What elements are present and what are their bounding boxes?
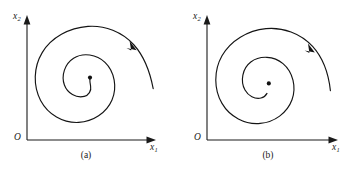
y-axis-arrowhead-icon [204, 15, 211, 25]
equilibrium-point-dot [267, 81, 271, 85]
y-axis-label: x2 [193, 12, 200, 22]
equilibrium-point-dot [88, 76, 92, 80]
panel-caption: (b) [238, 151, 298, 161]
panel-b: x2 x1 O (b) [180, 0, 360, 173]
origin-label: O [14, 133, 21, 143]
y-axis-label: x2 [13, 12, 20, 22]
origin-label: O [194, 133, 201, 143]
panel-caption: (a) [56, 151, 116, 161]
x-axis-label: x1 [150, 143, 157, 153]
spiral-trajectory [216, 28, 331, 123]
y-axis-arrowhead-icon [24, 15, 31, 25]
spiral-trajectory [35, 26, 153, 122]
x-axis-label: x1 [332, 143, 339, 153]
spiral-direction-arrowhead-icon [305, 43, 315, 53]
panel-a: x2 x1 O (a) [0, 0, 180, 173]
figure-root: x2 x1 O (a) x2 x1 O (b) [0, 0, 361, 173]
